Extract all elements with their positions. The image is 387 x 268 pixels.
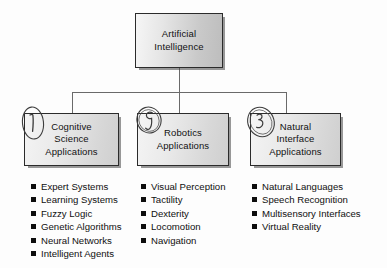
node-robotics-applications: Robotics Applications xyxy=(137,113,229,166)
node-natural-line-2: Interface xyxy=(277,133,315,144)
node-robotics-label: Robotics Applications xyxy=(153,127,213,152)
bullet-square-icon xyxy=(141,184,146,189)
list-item: Locomotion xyxy=(141,220,226,233)
node-cognitive-label: Cognitive Science Applications xyxy=(41,121,101,159)
list-item: Multisensory Interfaces xyxy=(252,207,361,220)
list-item: Genetic Algorithms xyxy=(31,220,122,233)
list-item: Tactility xyxy=(141,193,226,206)
list-item-label: Dexterity xyxy=(151,207,189,220)
bullet-square-icon xyxy=(141,197,146,202)
bullet-square-icon xyxy=(31,238,36,243)
bullet-square-icon xyxy=(252,224,257,229)
bullet-square-icon xyxy=(252,197,257,202)
list-item-label: Tactility xyxy=(151,193,182,206)
list-robotics-items: Visual Perception Tactility Dexterity Lo… xyxy=(141,180,226,247)
node-cognitive-line-2: Science xyxy=(54,133,89,144)
list-item-label: Intelligent Agents xyxy=(41,247,114,260)
list-item-label: Navigation xyxy=(151,234,196,247)
list-item-label: Natural Languages xyxy=(262,180,343,193)
list-item-label: Fuzzy Logic xyxy=(41,207,92,220)
list-item-label: Virtual Reality xyxy=(262,220,321,233)
node-cognitive-line-1: Cognitive xyxy=(51,121,92,132)
bullet-square-icon xyxy=(252,184,257,189)
node-natural-interface-applications: Natural Interface Applications xyxy=(250,113,341,166)
bullet-square-icon xyxy=(141,238,146,243)
bullet-square-icon xyxy=(252,211,257,216)
list-item: Neural Networks xyxy=(31,234,122,247)
list-item-label: Visual Perception xyxy=(151,180,226,193)
list-item: Intelligent Agents xyxy=(31,247,122,260)
node-cognitive-line-3: Applications xyxy=(45,146,97,157)
list-item: Visual Perception xyxy=(141,180,226,193)
list-item-label: Learning Systems xyxy=(41,193,118,206)
bullet-square-icon xyxy=(31,184,36,189)
node-cognitive-science-applications: Cognitive Science Applications xyxy=(24,113,119,166)
node-root-line-2: Intelligence xyxy=(154,41,203,52)
bullet-square-icon xyxy=(141,224,146,229)
list-item: Speech Recognition xyxy=(252,193,361,206)
bullet-square-icon xyxy=(141,211,146,216)
bullet-square-icon xyxy=(31,211,36,216)
bullet-square-icon xyxy=(31,197,36,202)
node-robotics-line-1: Robotics xyxy=(164,127,202,138)
list-item: Learning Systems xyxy=(31,193,122,206)
list-item-label: Genetic Algorithms xyxy=(41,220,122,233)
list-item: Natural Languages xyxy=(252,180,361,193)
list-item-label: Multisensory Interfaces xyxy=(262,207,361,220)
node-root-label: Artificial Intelligence xyxy=(150,28,207,53)
node-natural-line-3: Applications xyxy=(269,146,321,157)
list-item: Fuzzy Logic xyxy=(31,207,122,220)
diagram-canvas: Artificial Intelligence Cognitive Scienc… xyxy=(0,0,387,268)
list-cognitive-science-items: Expert Systems Learning Systems Fuzzy Lo… xyxy=(31,180,122,260)
list-item-label: Neural Networks xyxy=(41,234,112,247)
list-item: Virtual Reality xyxy=(252,220,361,233)
list-item: Expert Systems xyxy=(31,180,122,193)
bullet-square-icon xyxy=(31,224,36,229)
list-item: Navigation xyxy=(141,234,226,247)
node-natural-label: Natural Interface Applications xyxy=(265,121,325,159)
list-item-label: Speech Recognition xyxy=(262,193,348,206)
list-natural-interface-items: Natural Languages Speech Recognition Mul… xyxy=(252,180,361,234)
node-robotics-line-2: Applications xyxy=(157,140,209,151)
bullet-square-icon xyxy=(31,251,36,256)
node-artificial-intelligence: Artificial Intelligence xyxy=(135,13,223,68)
list-item-label: Locomotion xyxy=(151,220,201,233)
node-natural-line-1: Natural xyxy=(280,121,311,132)
list-item-label: Expert Systems xyxy=(41,180,108,193)
list-item: Dexterity xyxy=(141,207,226,220)
node-root-line-1: Artificial xyxy=(162,28,196,39)
